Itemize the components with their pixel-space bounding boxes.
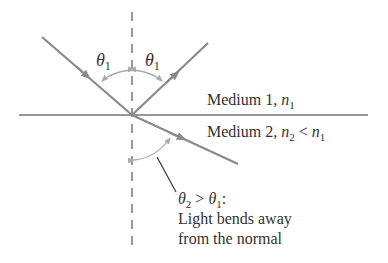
theta1-label-right: θ1 xyxy=(145,50,160,73)
annotation-line3: from the normal xyxy=(178,230,283,247)
annotation-leader xyxy=(157,157,176,192)
annotation-condition: θ2 > θ1: xyxy=(178,190,226,210)
medium1-label: Medium 1, n1 xyxy=(207,91,295,111)
angle-arc-refracted xyxy=(134,138,170,160)
incident-arrow-icon xyxy=(77,67,87,76)
medium2-label: Medium 2, n2 < n1 xyxy=(207,123,325,143)
refracted-arrow-icon xyxy=(170,133,182,138)
refraction-diagram: θ1 θ1 Medium 1, n1 Medium 2, n2 < n1 θ2 … xyxy=(0,0,388,263)
reflected-arrow-icon xyxy=(166,74,176,83)
annotation-line2: Light bends away xyxy=(178,210,292,228)
theta1-label-left: θ1 xyxy=(96,50,111,73)
